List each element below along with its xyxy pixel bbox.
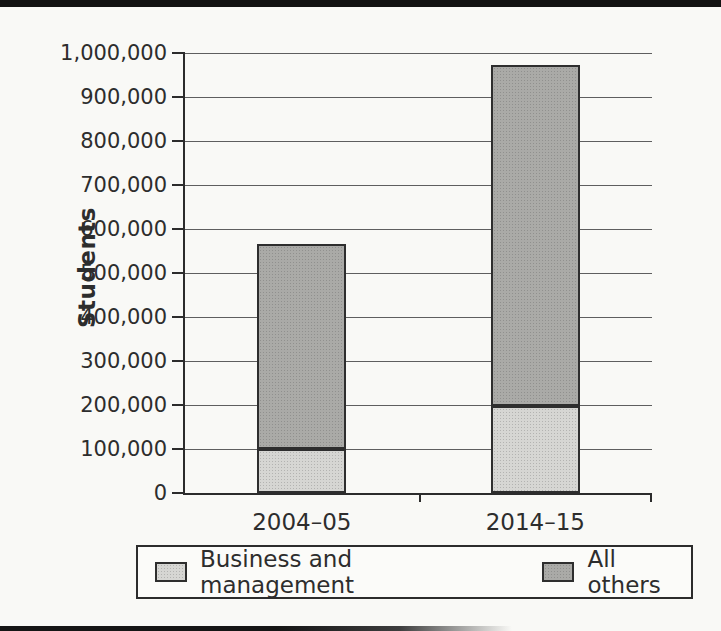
y-tick-label-700000: 700,000 (0, 174, 167, 196)
legend-swatch-business-and-management (155, 562, 187, 582)
gridline-700000 (185, 185, 652, 186)
gridline-1000000 (185, 53, 652, 54)
bar-segment-all-others-2014-15 (491, 65, 580, 406)
y-tick-600000 (172, 228, 185, 230)
y-tick-300000 (172, 360, 185, 362)
y-tick-1000000 (172, 52, 185, 54)
y-tick-800000 (172, 140, 185, 142)
y-tick-500000 (172, 272, 185, 274)
y-tick-700000 (172, 184, 185, 186)
gridline-900000 (185, 97, 652, 98)
gridline-800000 (185, 141, 652, 142)
y-tick-100000 (172, 448, 185, 450)
y-tick-0 (172, 492, 185, 494)
y-tick-label-100000: 100,000 (0, 438, 167, 460)
legend-item-all-others: All others (542, 546, 691, 598)
legend-swatch-all-others (542, 562, 574, 582)
gridline-600000 (185, 229, 652, 230)
gridline-400000 (185, 317, 652, 318)
gridline-300000 (185, 361, 652, 362)
x-axis-tick-1 (419, 493, 421, 502)
y-tick-400000 (172, 316, 185, 318)
legend-label-all-others: All others (587, 546, 691, 598)
bar-segment-all-others-2004-05 (257, 244, 346, 448)
legend-label-business-and-management: Business and management (200, 546, 500, 598)
y-tick-label-900000: 900,000 (0, 86, 167, 108)
y-tick-label-800000: 800,000 (0, 130, 167, 152)
legend-item-business-and-management: Business and management (155, 546, 500, 598)
scan-edge-bottom-bar (0, 626, 512, 631)
scanned-chart-page: Students 2004–052014–150100,000200,00030… (0, 0, 721, 631)
x-tick-label-2014-15: 2014–15 (445, 509, 625, 535)
y-tick-label-600000: 600,000 (0, 218, 167, 240)
y-tick-label-200000: 200,000 (0, 394, 167, 416)
y-tick-label-0: 0 (0, 482, 167, 504)
y-tick-200000 (172, 404, 185, 406)
plot-area: 2004–052014–150100,000200,000300,000400,… (183, 53, 652, 495)
y-tick-label-400000: 400,000 (0, 306, 167, 328)
y-tick-label-500000: 500,000 (0, 262, 167, 284)
x-tick-label-2004-05: 2004–05 (212, 509, 392, 535)
x-axis-tick-2 (650, 493, 652, 502)
bar-segment-business-and-management-2014-15 (491, 406, 580, 493)
y-tick-label-1000000: 1,000,000 (0, 42, 167, 64)
y-tick-900000 (172, 96, 185, 98)
gridline-500000 (185, 273, 652, 274)
bar-segment-business-and-management-2004-05 (257, 449, 346, 493)
y-tick-label-300000: 300,000 (0, 350, 167, 372)
gridline-200000 (185, 405, 652, 406)
legend: Business and management All others (136, 545, 693, 599)
gridline-100000 (185, 449, 652, 450)
scan-edge-top-bar (0, 0, 721, 7)
